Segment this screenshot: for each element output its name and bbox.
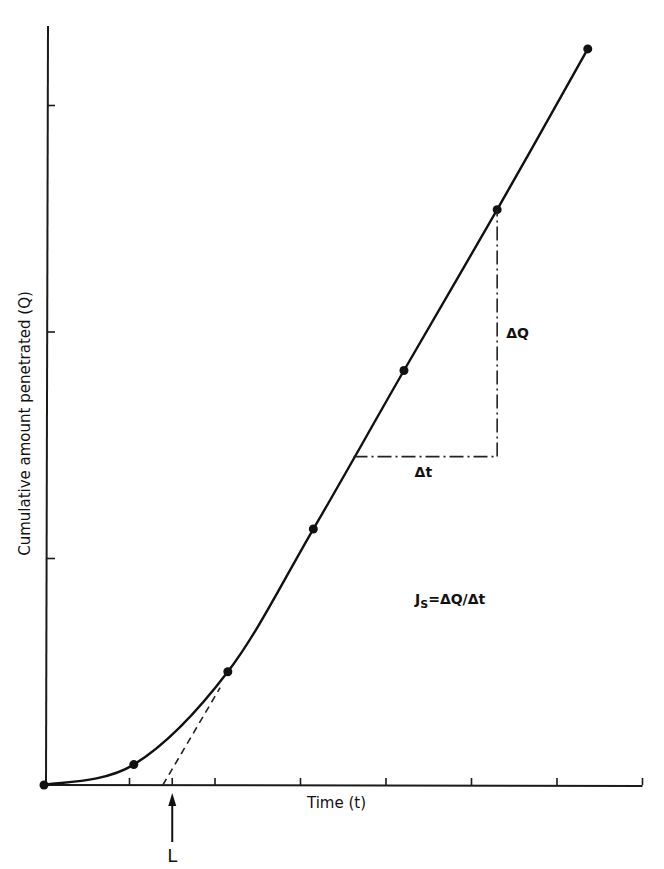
series-group [40, 44, 593, 789]
data-point [129, 760, 138, 769]
lag-time-label: L [167, 845, 177, 866]
series-line-cumulative [44, 49, 588, 785]
x-axis-label: Time (t) [306, 794, 366, 812]
y-axis-label: Cumulative amount penetrated (Q) [16, 291, 34, 556]
delta-t-label: Δt [415, 464, 433, 480]
lag-time-marker: L [167, 793, 177, 866]
flux-subscript: S [420, 598, 428, 611]
data-point [40, 781, 49, 790]
arrow-up-icon [168, 793, 176, 806]
delta-q-label: ΔQ [506, 325, 529, 341]
x-axis [44, 785, 643, 786]
flux-formula: =ΔQ/Δt [428, 591, 485, 607]
x-ticks [130, 778, 643, 785]
data-point [223, 667, 232, 676]
flux-equation: JS=ΔQ/Δt [414, 591, 486, 611]
axes [44, 26, 643, 786]
data-point [309, 525, 318, 534]
y-axis [46, 26, 48, 785]
annotations: Δt ΔQ L JS=ΔQ/Δt [167, 210, 529, 866]
data-point [583, 44, 592, 53]
data-point [399, 366, 408, 375]
chart: Cumulative amount penetrated (Q) Time (t… [0, 0, 664, 869]
